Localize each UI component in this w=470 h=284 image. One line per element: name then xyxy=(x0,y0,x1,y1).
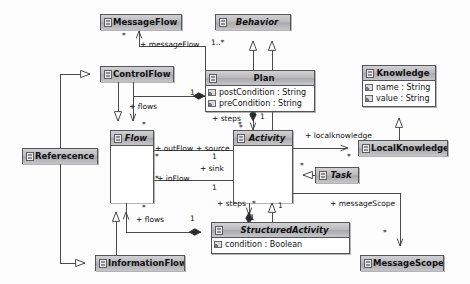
class-header-flow: Flow xyxy=(111,131,153,146)
uml-class-messagescope[interactable]: MessageScope xyxy=(360,255,444,271)
uml-class-behavior[interactable]: Behavior xyxy=(215,14,291,30)
class-name-label: Referecence xyxy=(35,151,94,161)
class-header-knowledge: Knowledge xyxy=(363,66,435,81)
class-header-controlflow: ControlFlow xyxy=(101,67,173,82)
class-name-label: MessageFlow xyxy=(113,17,177,27)
class-name-label: ControlFlow xyxy=(113,69,171,79)
mult-messageflow-star: * xyxy=(122,31,126,40)
class-icon xyxy=(209,74,217,83)
mult-plan-flows-1: 1 xyxy=(190,88,195,97)
class-empty-compartment xyxy=(111,146,153,203)
class-name-label: Activity xyxy=(249,133,285,143)
mult-inflow-star: * xyxy=(155,174,159,183)
uml-class-plan[interactable]: PlanpostCondition : StringpreCondition :… xyxy=(205,70,315,112)
class-attribute: preCondition : String xyxy=(206,98,314,109)
class-icon xyxy=(104,18,112,27)
uml-class-informationflow[interactable]: InformationFlow xyxy=(95,255,185,271)
mult-steps-star: * xyxy=(239,123,243,132)
class-empty-compartment xyxy=(234,146,292,203)
class-icon xyxy=(99,259,107,268)
mult-messagescope-star: * xyxy=(383,228,387,237)
attribute-icon xyxy=(208,100,216,107)
class-attributes-structuredactivity: condition : Boolean xyxy=(212,238,349,251)
class-icon xyxy=(215,226,223,235)
edge-referecence-controlflow xyxy=(60,74,90,148)
class-header-task: Task xyxy=(316,168,358,183)
class-header-messageflow: MessageFlow xyxy=(101,15,181,30)
class-name-label: Knowledge xyxy=(377,68,430,78)
mult-flows-bottom-1: 1 xyxy=(190,214,195,223)
class-attribute: value : String xyxy=(363,93,435,104)
uml-class-structuredactivity[interactable]: StructuredActivitycondition : Boolean xyxy=(211,222,350,254)
class-icon xyxy=(26,152,34,161)
class-header-informationflow: InformationFlow xyxy=(96,256,184,271)
mult-struct-steps-1: 1 xyxy=(250,213,255,222)
class-name-label: Behavior xyxy=(236,17,279,27)
class-icon xyxy=(104,70,112,79)
class-header-messagescope: MessageScope xyxy=(361,256,443,271)
attribute-icon xyxy=(365,84,373,91)
mult-flow-star-top: * xyxy=(142,120,146,129)
mult-flow-star-bottom: * xyxy=(142,203,146,212)
uml-class-messageflow[interactable]: MessageFlow xyxy=(100,14,182,30)
lbl-outflow: + outFlow xyxy=(155,144,193,153)
class-attributes-knowledge: name : Stringvalue : String xyxy=(363,81,435,105)
mult-struct-star: * xyxy=(252,199,256,208)
mult-struct-1: 1 xyxy=(278,201,283,210)
class-attributes-plan: postCondition : StringpreCondition : Str… xyxy=(206,86,314,110)
mult-source-1: 1 xyxy=(212,152,217,161)
uml-class-task[interactable]: Task xyxy=(315,167,359,183)
attribute-icon xyxy=(214,241,222,248)
class-icon xyxy=(366,69,374,78)
edge-referecence-informationflow xyxy=(60,164,85,263)
class-name-label: StructuredActivity xyxy=(240,225,328,235)
uml-class-knowledge[interactable]: Knowledgename : Stringvalue : String xyxy=(362,65,436,107)
attribute-icon xyxy=(208,89,216,96)
class-attribute: name : String xyxy=(363,82,435,93)
attribute-label: value : String xyxy=(376,94,430,103)
lbl-sink: + sink xyxy=(200,164,224,173)
class-icon xyxy=(364,259,372,268)
class-icon xyxy=(219,18,227,27)
attribute-label: preCondition : String xyxy=(219,99,302,108)
uml-class-diagram: MessageFlowBehaviorControlFlowPlanpostCo… xyxy=(0,0,470,284)
lbl-steps-bottom: + steps xyxy=(217,199,246,208)
class-attribute: postCondition : String xyxy=(206,87,314,98)
class-header-referecence: Referecence xyxy=(23,149,97,164)
class-name-label: Plan xyxy=(254,73,275,83)
class-name-label: InformationFlow xyxy=(108,258,184,268)
lbl-localknowledge: + localknowledge xyxy=(305,131,372,140)
attribute-label: condition : Boolean xyxy=(225,240,302,249)
lbl-steps-top: + steps xyxy=(212,114,241,123)
class-header-activity: Activity xyxy=(234,131,292,146)
lbl-messageflow: + messageFlow xyxy=(140,40,200,49)
mult-behavior-1star: 1..* xyxy=(211,38,224,47)
class-name-label: Task xyxy=(330,170,351,180)
class-icon xyxy=(362,144,370,153)
lbl-inflow: + inFlow xyxy=(157,174,190,183)
class-header-behavior: Behavior xyxy=(216,15,290,30)
mult-outflow-star: * xyxy=(155,152,159,161)
class-name-label: LocalKnowledge xyxy=(371,143,447,153)
lbl-flows-top: + flows xyxy=(129,102,157,111)
class-name-label: Flow xyxy=(125,133,147,143)
mult-sink-1: 1 xyxy=(212,183,217,192)
lbl-flows-bottom: + flows xyxy=(136,215,164,224)
attribute-icon xyxy=(365,95,373,102)
class-header-plan: Plan xyxy=(206,71,314,86)
uml-class-activity[interactable]: Activity xyxy=(233,130,293,203)
uml-class-flow[interactable]: Flow xyxy=(110,130,154,203)
class-attribute: condition : Boolean xyxy=(212,239,349,250)
class-header-structuredactivity: StructuredActivity xyxy=(212,223,349,238)
class-icon xyxy=(319,171,327,180)
uml-class-localknowledge[interactable]: LocalKnowledge xyxy=(358,140,448,156)
uml-class-referecence[interactable]: Referecence xyxy=(22,148,98,164)
attribute-label: postCondition : String xyxy=(219,88,306,97)
attribute-label: name : String xyxy=(376,83,430,92)
class-header-localknowledge: LocalKnowledge xyxy=(359,141,447,156)
mult-localknowledge-star: * xyxy=(347,152,351,161)
class-icon xyxy=(114,134,122,143)
mult-steps-1: 1 xyxy=(260,112,265,121)
uml-class-controlflow[interactable]: ControlFlow xyxy=(100,66,174,82)
lbl-messagescope: + messageScope xyxy=(330,199,395,208)
